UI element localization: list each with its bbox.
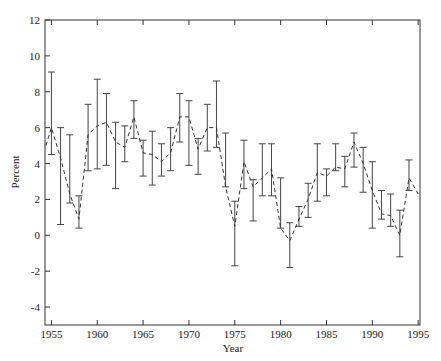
x-tick-label: 1975 [224, 328, 247, 340]
error-bar [130, 101, 137, 139]
y-tick-label: 6 [35, 122, 41, 134]
error-bar [332, 144, 339, 171]
x-tick-label: 1980 [270, 328, 293, 340]
y-tick-label: 2 [35, 193, 41, 205]
x-tick-label: 1960 [86, 328, 109, 340]
x-tick-label: 1995 [407, 328, 430, 340]
error-bar [350, 133, 357, 167]
y-tick-label: 12 [29, 14, 40, 26]
x-axis-title: Year [223, 342, 244, 354]
error-bar [378, 190, 385, 219]
error-bar [167, 128, 174, 171]
error-bar [231, 201, 238, 266]
plot-frame [45, 20, 420, 325]
error-bar [149, 131, 156, 185]
plot-border [45, 20, 420, 325]
chart: -4-2024681012 19551960196519701975198019… [0, 0, 441, 361]
error-bar [57, 128, 64, 225]
data-line [46, 117, 418, 241]
y-tick-label: 4 [35, 158, 41, 170]
error-bar [112, 122, 119, 188]
error-bar [222, 133, 229, 187]
error-bar [140, 140, 147, 176]
error-bar [94, 79, 101, 169]
x-tick-label: 1985 [315, 328, 338, 340]
error-bar [369, 162, 376, 228]
error-bar [158, 144, 165, 176]
x-tick-label: 1955 [40, 328, 63, 340]
error-bar [185, 101, 192, 166]
error-bar [103, 94, 110, 166]
y-tick-label: 10 [29, 50, 41, 62]
x-axis: 195519601965197019751980198519901995 [40, 20, 429, 340]
x-tick-label: 1970 [178, 328, 201, 340]
y-tick-label: 8 [35, 86, 41, 98]
y-tick-label: -2 [31, 265, 40, 277]
error-bar [277, 178, 284, 228]
error-bar [323, 169, 330, 196]
error-bar [259, 144, 266, 196]
error-bar [121, 126, 128, 162]
y-axis-title: Percent [9, 156, 21, 189]
error-bar [48, 72, 55, 155]
error-bar [286, 223, 293, 268]
error-bars [48, 72, 413, 268]
error-bar [295, 207, 302, 227]
y-tick-label: -4 [31, 301, 41, 313]
x-tick-label: 1990 [361, 328, 384, 340]
error-bar [405, 160, 412, 191]
x-tick-label: 1965 [132, 328, 155, 340]
y-tick-label: 0 [35, 229, 41, 241]
y-axis: -4-2024681012 [29, 14, 50, 313]
error-bar [213, 81, 220, 147]
